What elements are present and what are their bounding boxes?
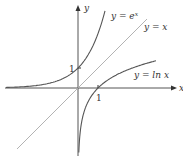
x-axis-label: x: [179, 83, 183, 93]
x-tick-label: 1: [96, 93, 102, 103]
exp-superscript: x: [135, 10, 139, 17]
log-curve-label: y = ln x: [133, 70, 169, 80]
y-axis-label: y: [83, 3, 90, 13]
identity-line-label: y = x: [143, 22, 167, 32]
y-axis-arrow-icon: [76, 5, 81, 11]
exp-curve-label: y = ex: [110, 10, 139, 21]
y-tick-label: 1: [69, 64, 75, 74]
identity-line: [17, 19, 147, 149]
x-axis-arrow-icon: [171, 86, 177, 91]
function-graph: x y 1 1 y = ex y = x y = ln x: [0, 0, 183, 162]
